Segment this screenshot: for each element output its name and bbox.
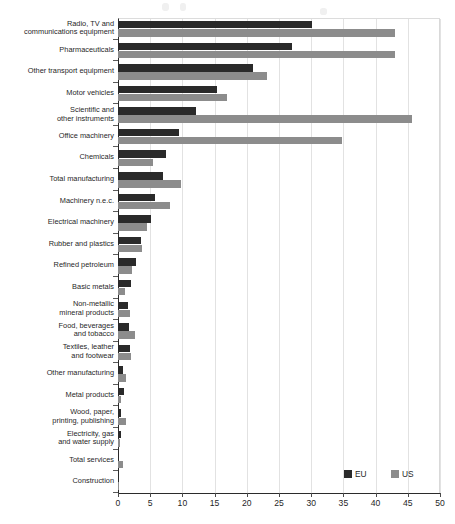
x-axis-tick: [279, 493, 280, 497]
bar-us: [118, 396, 121, 403]
category-label: Construction: [0, 477, 114, 486]
x-axis-label: 40: [371, 498, 381, 508]
x-axis-label: 5: [148, 498, 153, 508]
scan-artifact: [162, 3, 169, 11]
bar-us: [118, 331, 135, 338]
category-label: Motor vehicles: [0, 89, 114, 98]
legend: EU US: [344, 469, 444, 481]
bar-eu: [118, 215, 151, 222]
category-label-line: and tobacco: [0, 330, 114, 339]
category-label-line: Metal products: [0, 391, 114, 400]
chart-row: Metal products: [0, 385, 455, 407]
category-label: Total services: [0, 456, 114, 465]
bar-eu: [118, 43, 292, 50]
bar-us: [118, 115, 412, 122]
bar-eu: [118, 64, 253, 71]
category-label-line: and footwear: [0, 352, 114, 361]
bar-eu: [118, 86, 217, 93]
bar-eu: [118, 366, 123, 373]
bar-us: [118, 223, 147, 230]
chart-row: Chemicals: [0, 147, 455, 169]
bar-eu: [118, 474, 119, 481]
bar-eu: [118, 107, 196, 114]
bar-us: [118, 180, 181, 187]
chart-row: Basic metals: [0, 277, 455, 299]
category-label: Electrical machinery: [0, 218, 114, 227]
x-axis-tick: [247, 493, 248, 497]
bar-us: [118, 159, 153, 166]
bar-group: [118, 342, 455, 364]
category-label: Textiles, leatherand footwear: [0, 343, 114, 360]
bar-chart: Radio, TV andcommunications equipmentPha…: [0, 0, 455, 524]
bar-eu: [118, 258, 136, 265]
chart-row: Pharmaceuticals: [0, 40, 455, 62]
category-label: Radio, TV andcommunications equipment: [0, 20, 114, 37]
bar-group: [118, 277, 455, 299]
bar-eu: [118, 237, 141, 244]
bar-eu: [118, 280, 131, 287]
category-label: Basic metals: [0, 283, 114, 292]
x-axis-label: 30: [306, 498, 316, 508]
chart-row: Non-metallicmineral products: [0, 299, 455, 321]
chart-rows: Radio, TV andcommunications equipmentPha…: [0, 18, 455, 493]
bar-group: [118, 40, 455, 62]
chart-row: Total services: [0, 450, 455, 472]
bar-eu: [118, 194, 155, 201]
bar-eu: [118, 129, 179, 136]
category-label: Other manufacturing: [0, 369, 114, 378]
x-axis-label: 45: [403, 498, 413, 508]
bar-group: [118, 450, 455, 472]
x-axis-label: 0: [116, 498, 121, 508]
x-axis-tick: [408, 493, 409, 497]
bar-us: [118, 266, 132, 273]
bar-group: [118, 428, 455, 450]
bar-us: [118, 310, 130, 317]
category-label: Metal products: [0, 391, 114, 400]
chart-row: Scientific andother instruments: [0, 104, 455, 126]
category-label-line: and water supply: [0, 438, 114, 447]
category-label-line: Total manufacturing: [0, 175, 114, 184]
x-axis-tick: [215, 493, 216, 497]
chart-row: Electrical machinery: [0, 212, 455, 234]
bar-group: [118, 255, 455, 277]
x-axis-tick: [150, 493, 151, 497]
bar-group: [118, 126, 455, 148]
bar-eu: [118, 409, 121, 416]
category-label: Chemicals: [0, 153, 114, 162]
bar-group: [118, 104, 455, 126]
bar-group: [118, 18, 455, 40]
chart-row: Rubber and plastics: [0, 234, 455, 256]
category-label-line: Other transport equipment: [0, 67, 114, 76]
chart-row: Food, beveragesand tobacco: [0, 320, 455, 342]
x-axis-label: 50: [435, 498, 445, 508]
category-label: Electricity, gasand water supply: [0, 430, 114, 447]
bar-eu: [118, 431, 121, 438]
category-label-line: Chemicals: [0, 153, 114, 162]
chart-row: Textiles, leatherand footwear: [0, 342, 455, 364]
category-label-line: Motor vehicles: [0, 89, 114, 98]
bar-group: [118, 212, 455, 234]
bar-us: [118, 461, 123, 468]
x-axis-tick: [311, 493, 312, 497]
legend-label-us: US: [402, 469, 414, 479]
category-label-line: other instruments: [0, 115, 114, 124]
bar-eu: [118, 172, 163, 179]
category-label-line: Total services: [0, 456, 114, 465]
chart-row: Radio, TV andcommunications equipment: [0, 18, 455, 40]
category-label: Other transport equipment: [0, 67, 114, 76]
bar-us: [118, 288, 125, 295]
bar-group: [118, 385, 455, 407]
category-label: Rubber and plastics: [0, 240, 114, 249]
chart-row: Office machinery: [0, 126, 455, 148]
category-label-line: Electrical machinery: [0, 218, 114, 227]
category-label: Food, beveragesand tobacco: [0, 322, 114, 339]
bar-group: [118, 234, 455, 256]
bar-group: [118, 169, 455, 191]
x-axis-label: 15: [210, 498, 220, 508]
x-axis-tick: [343, 493, 344, 497]
category-label-line: Office machinery: [0, 132, 114, 141]
chart-row: Motor vehicles: [0, 83, 455, 105]
bar-us: [118, 94, 227, 101]
legend-swatch-eu: [344, 470, 352, 478]
legend-item-eu: EU: [344, 469, 367, 479]
